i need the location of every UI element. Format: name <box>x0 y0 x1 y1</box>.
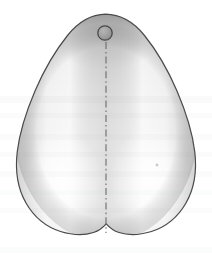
cusp-tip-marker[interactable] <box>98 26 112 40</box>
crown-outline-figure <box>0 0 212 259</box>
cusp-tip-marker-circle[interactable] <box>98 26 112 40</box>
scan-speck <box>156 164 159 167</box>
figure-container <box>0 0 212 259</box>
